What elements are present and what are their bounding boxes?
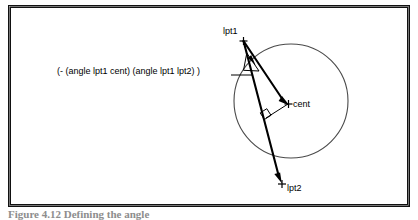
figure-container: (- (angle lpt1 cent) (angle lpt1 lpt2) )… xyxy=(0,0,418,220)
label-lpt1: lpt1 xyxy=(223,27,238,36)
figure-caption: Figure 4.12 Defining the angle xyxy=(8,211,149,220)
label-cent: cent xyxy=(293,100,310,109)
figure-caption-strip: Figure 4.12 Defining the angle xyxy=(0,211,418,220)
angle-formula-annotation: (- (angle lpt1 cent) (angle lpt1 lpt2) ) xyxy=(57,67,200,76)
label-lpt2: lpt2 xyxy=(287,184,302,193)
figure-border xyxy=(10,7,409,206)
geometry-diagram xyxy=(0,0,418,220)
